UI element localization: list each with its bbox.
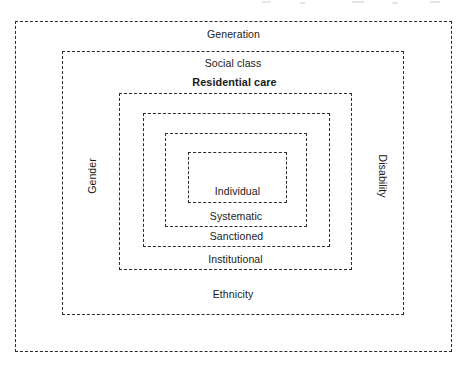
label-sanctioned: Sanctioned [144,230,329,242]
label-gender: Gender [86,146,98,206]
scan-speckle [352,1,364,3]
label-individual: Individual [189,185,286,197]
label-ethnicity: Ethnicity [63,288,403,300]
label-systematic: Systematic [166,210,306,222]
ring-individual: Individual [188,152,287,203]
nested-rings-diagram: Generation Social class Ethnicity Gender… [0,0,469,370]
label-generation: Generation [16,28,451,40]
scan-speckle [262,1,271,3]
label-residential-care: Residential care [0,76,469,88]
label-disability: Disability [377,146,389,206]
scan-speckle [392,2,398,4]
label-institutional: Institutional [120,253,351,265]
scan-speckle [300,2,305,4]
label-social-class: Social class [63,57,403,69]
scan-speckle [430,1,440,3]
